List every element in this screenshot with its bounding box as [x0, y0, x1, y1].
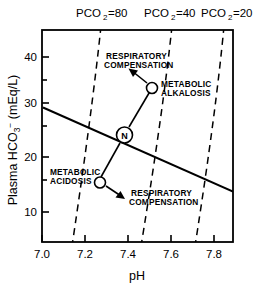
- pco2-20-label-main: PCO: [201, 7, 226, 19]
- pco2-40-label-value: =40: [176, 7, 196, 19]
- y-axis-title-main: Plasma HCO: [6, 132, 20, 205]
- metabolic-acidosis-marker: [95, 177, 106, 188]
- metabolic-acidosis-label-line2: ACIDOSIS: [50, 176, 92, 186]
- chart-svg: PCO 2 =80 PCO 2 =40 PCO 2 =20 N: [0, 0, 264, 290]
- normal-point-label: N: [121, 131, 128, 141]
- svg-text:Plasma HCO3− (mEq/L): Plasma HCO3− (mEq/L): [5, 75, 22, 206]
- y-axis-title: Plasma HCO3− (mEq/L): [5, 75, 22, 206]
- y-tick-label-20: 20: [24, 151, 37, 163]
- x-tick-label-7-8: 7.8: [206, 248, 222, 260]
- respiratory-compensation-lower: RESPIRATORY COMPENSATION: [129, 188, 199, 207]
- respiratory-compensation-upper: RESPIRATORY COMPENSATION: [104, 51, 174, 70]
- x-tick-label-7-0: 7.0: [34, 248, 50, 260]
- metabolic-alkalosis-label-line2: ALKALOSIS: [161, 88, 211, 98]
- x-tick-label-7-6: 7.6: [163, 248, 179, 260]
- pco2-20-label-value: =20: [233, 7, 253, 19]
- x-tick-label-7-4: 7.4: [120, 248, 137, 260]
- metabolic-alkalosis-marker: [147, 83, 158, 94]
- chart-background: [0, 0, 264, 290]
- x-axis-title: pH: [129, 269, 145, 283]
- y-tick-label-30: 30: [24, 97, 37, 109]
- resp-comp-upper-line2: COMPENSATION: [104, 60, 174, 70]
- acid-base-davenport-chart: PCO 2 =80 PCO 2 =40 PCO 2 =20 N: [0, 0, 264, 290]
- y-tick-label-10: 10: [24, 206, 37, 218]
- y-axis-title-unit: (mEq/L): [6, 75, 20, 123]
- pco2-80-label-main: PCO: [76, 7, 101, 19]
- pco2-40-label-main: PCO: [144, 7, 169, 19]
- y-tick-label-40: 40: [24, 51, 37, 63]
- resp-comp-lower-line2: COMPENSATION: [129, 197, 199, 207]
- pco2-80-label-value: =80: [108, 7, 128, 19]
- x-tick-label-7-2: 7.2: [77, 248, 93, 260]
